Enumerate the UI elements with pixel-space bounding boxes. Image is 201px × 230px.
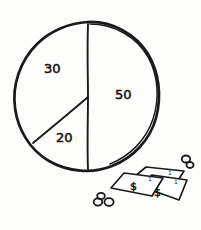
pie-slice-label-50: 50: [115, 87, 132, 102]
pie-slice-label-30: 30: [44, 61, 61, 76]
pie-chart-sketch: 30 50 20 1 $ 1 $ 1: [0, 0, 201, 230]
bill-corner-mark: 1: [174, 178, 178, 185]
coin: [97, 193, 105, 199]
coin: [186, 162, 193, 168]
dollar-bill-group: 1 $ 1 $ 1: [111, 167, 187, 200]
bill-corner-mark: 1: [148, 175, 152, 182]
pie-divider-lines: [33, 24, 88, 169]
bill-dollar-sign: $: [130, 180, 137, 193]
pie-slice-label-20: 20: [56, 130, 73, 145]
coin: [104, 198, 113, 206]
sketch-canvas: 30 50 20 1 $ 1 $ 1: [0, 0, 201, 230]
bill-corner-mark: 1: [168, 169, 172, 176]
